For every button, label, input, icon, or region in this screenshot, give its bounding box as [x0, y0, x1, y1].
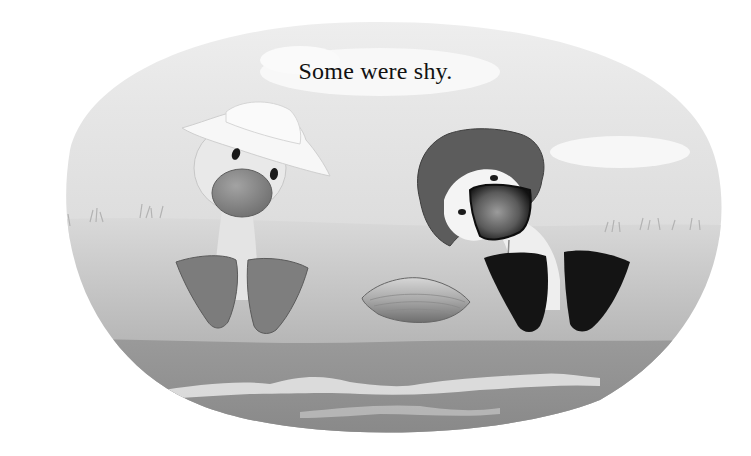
- sky: [0, 0, 751, 240]
- water: [0, 338, 751, 456]
- right-duckling-eye: [458, 209, 466, 215]
- page-caption: Some were shy.: [0, 58, 751, 85]
- cloud: [550, 136, 690, 168]
- right-duckling-eye: [490, 175, 498, 181]
- right-duckling-bill: [470, 185, 531, 240]
- left-duckling-bill: [212, 169, 272, 217]
